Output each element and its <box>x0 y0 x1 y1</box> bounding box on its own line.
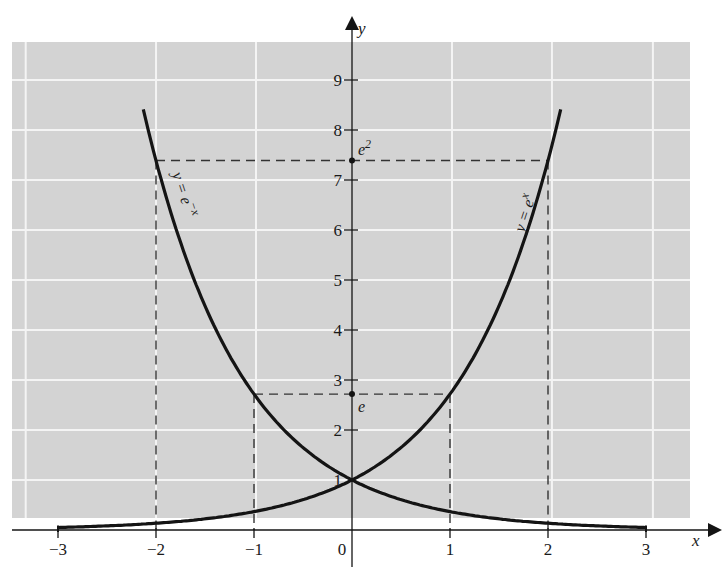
y-tick-label: 9 <box>334 71 343 90</box>
x-tick-label: 1 <box>446 540 455 559</box>
y-tick-label: 5 <box>334 271 343 290</box>
y-tick-label: 3 <box>334 371 343 390</box>
chart: −3−2−10123123456789xyy = e−xy = exe2e <box>0 0 723 570</box>
y-tick-label: 7 <box>334 171 343 190</box>
y-tick-label: 2 <box>334 421 343 440</box>
y-tick-label: 1 <box>334 471 343 490</box>
x-axis-label: x <box>691 531 700 550</box>
x-tick-label: −2 <box>147 540 165 559</box>
x-tick-label: −3 <box>49 540 67 559</box>
y-axis-label: y <box>356 19 366 38</box>
annotation-e: e <box>358 398 365 415</box>
x-tick-label: 2 <box>544 540 553 559</box>
y-tick-label: 8 <box>334 121 343 140</box>
y-tick-label: 4 <box>334 321 343 340</box>
y-axis-arrow-icon <box>345 16 359 30</box>
x-tick-label: 0 <box>338 540 347 559</box>
y-tick-label: 6 <box>334 221 343 240</box>
x-axis-arrow-icon <box>708 523 722 537</box>
x-tick-label: −1 <box>245 540 263 559</box>
x-tick-label: 3 <box>642 540 651 559</box>
